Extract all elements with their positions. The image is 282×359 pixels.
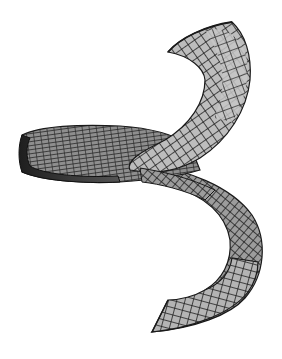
helicoid-surface	[0, 0, 282, 359]
upper-arm	[129, 22, 250, 172]
figure-canvas: Helicoidal ribbon surface	[0, 0, 282, 359]
